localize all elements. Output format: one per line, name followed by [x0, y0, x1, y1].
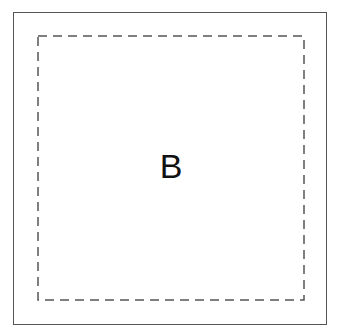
label-container: B [0, 0, 342, 336]
box-label: B [160, 147, 183, 186]
